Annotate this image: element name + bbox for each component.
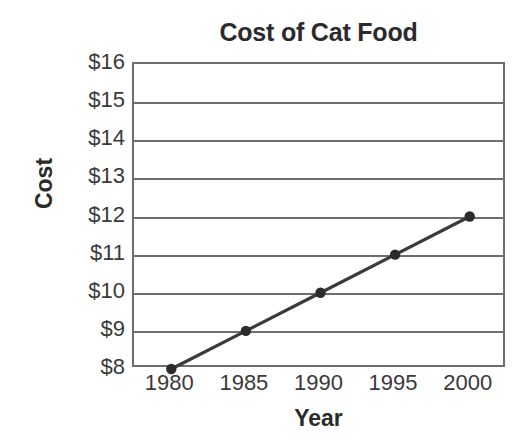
x-axis-tick-label: 1985 (219, 371, 268, 394)
x-axis-tick-label: 2000 (443, 371, 492, 394)
y-axis-tick-label: $9 (55, 318, 125, 340)
gridline (134, 255, 503, 257)
gridline (134, 331, 503, 333)
y-axis-tick-label: $14 (55, 127, 125, 149)
y-axis-title: Cost (31, 134, 58, 234)
gridline (134, 178, 503, 180)
x-axis-tick-label: 1980 (145, 371, 194, 394)
y-axis-tick-label: $15 (55, 89, 125, 111)
y-axis-tick-label: $13 (55, 165, 125, 187)
x-axis-tick-label: 1990 (294, 371, 343, 394)
gridline (134, 102, 503, 104)
chart-figure: Cost of Cat Food Cost $8$9$10$11$12$13$1… (0, 0, 529, 446)
y-axis-tick-label: $16 (55, 51, 125, 73)
gridline (134, 217, 503, 219)
y-axis-tick-labels: $8$9$10$11$12$13$14$15$16 (55, 62, 125, 367)
x-axis-tick-label: 1995 (369, 371, 418, 394)
y-axis-tick-label: $11 (55, 242, 125, 264)
x-axis-tick-labels: 19801985199019952000 (0, 371, 529, 401)
gridline (134, 293, 503, 295)
y-axis-tick-label: $12 (55, 204, 125, 226)
chart-title: Cost of Cat Food (132, 18, 505, 47)
y-axis-tick-label: $10 (55, 280, 125, 302)
plot-area (132, 62, 505, 367)
x-axis-title: Year (132, 405, 505, 432)
gridline (134, 140, 503, 142)
